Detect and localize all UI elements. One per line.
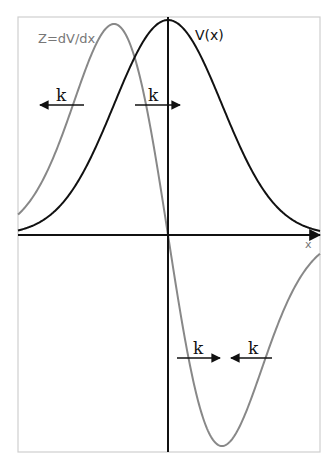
x-axis-label: x [305,238,312,251]
arrow-lower-center: k [177,338,220,358]
v-curve-label: V(x) [195,27,224,43]
diagram-canvas: x V(x) Z=dV/dx k k k k [0,0,336,467]
z-curve-label: Z=dV/dx [38,31,96,46]
arrow-label: k [193,338,204,358]
arrow-label: k [56,85,67,105]
arrow-label: k [148,85,159,105]
arrow-label: k [248,338,259,358]
